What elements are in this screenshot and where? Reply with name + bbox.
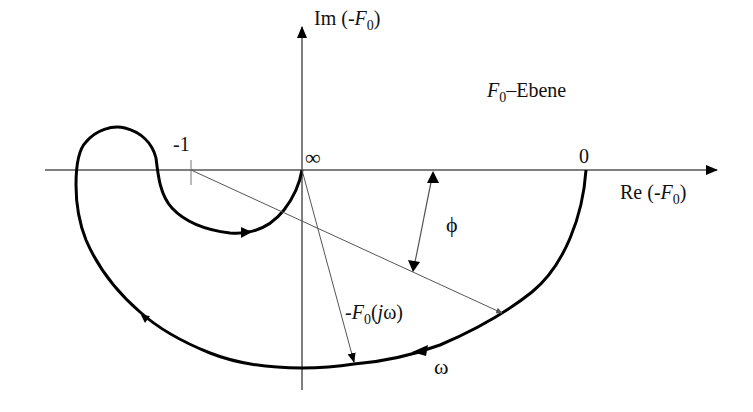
plane-label: F0–Ebene [487,80,566,100]
curve-direction-arrow-inner [241,227,252,238]
nyquist-diagram [0,0,753,412]
real-axis-label: Re (-F0) [620,182,686,202]
phase-angle-label: ϕ [446,214,458,236]
phase-angle-arc [413,173,433,271]
vector-from-minus-one [191,170,502,313]
imaginary-axis-label: Im (-F0) [314,8,380,28]
zero-label: 0 [579,146,589,166]
minus-one-label: -1 [173,134,190,154]
omega-direction-label: ω [434,356,448,378]
phase-arrow-top-icon [427,171,439,183]
nyquist-curve [76,127,586,368]
infinity-label: ∞ [305,147,321,169]
vector-label: -F0(jω) [345,302,403,322]
vector-minus-f0 [302,170,354,362]
